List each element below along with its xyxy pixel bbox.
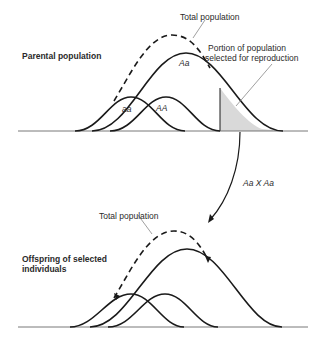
offspring-title-line1: Offspring of selected bbox=[22, 254, 107, 264]
aa-curve bbox=[70, 294, 184, 327]
aa-curve bbox=[75, 97, 185, 131]
parental-population-title: Parental population bbox=[22, 51, 101, 61]
offspring-title-line2: individuals bbox=[22, 264, 66, 274]
selected-portion-leader bbox=[236, 64, 272, 106]
AA-genotype-label: AA bbox=[156, 103, 167, 113]
AA-curve bbox=[108, 294, 218, 327]
arrow-path bbox=[210, 132, 240, 220]
Aa-curve bbox=[90, 249, 282, 327]
selected-portion-label-line2: selected for reproduction bbox=[205, 53, 299, 63]
total-population-leader bbox=[193, 20, 205, 38]
total-population-label: Total population bbox=[180, 12, 240, 22]
cross-label: Aa X Aa bbox=[243, 178, 274, 188]
Aa-genotype-label: Aa bbox=[179, 58, 189, 68]
total-population-curve bbox=[114, 231, 208, 298]
selected-portion-label-line1: Portion of population bbox=[208, 43, 286, 53]
total-population-curve bbox=[114, 35, 210, 101]
cross-arrow bbox=[208, 132, 240, 223]
arrow-head-icon bbox=[208, 214, 214, 223]
offspring-total-population-label: Total population bbox=[99, 211, 159, 221]
parental-population-graph bbox=[18, 20, 308, 131]
aa-genotype-label: aa bbox=[122, 104, 131, 114]
selected-portion-shading bbox=[220, 88, 283, 131]
